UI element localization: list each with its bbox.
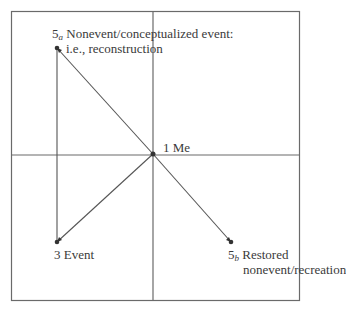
edge-me-5b [153, 154, 231, 242]
node-5b-subscript: b [235, 253, 240, 263]
node-3-label: 3 Event [54, 248, 94, 262]
node-me-number: 1 [163, 140, 170, 155]
node-5a-text: Nonevent/conceptualized event: [66, 26, 233, 41]
edge-me-5a [57, 48, 153, 154]
node-5b-text: Restored [242, 247, 288, 262]
node-me-text: Me [173, 140, 190, 155]
node-5b-label: 5b Restored [228, 248, 288, 262]
node-5b-point [229, 240, 234, 245]
node-5a-label-line2: i.e., reconstruction [66, 42, 163, 56]
node-3-text: Event [64, 247, 94, 262]
node-5b-label-line2: nonevent/recreation [243, 263, 346, 277]
node-me-point [151, 152, 156, 157]
node-5a-label: 5a Nonevent/conceptualized event: [52, 27, 233, 41]
node-me-label: 1 Me [163, 141, 190, 155]
node-5b-text-line2: nonevent/recreation [243, 262, 346, 277]
node-5a-point [55, 46, 60, 51]
node-5a-text-line2: i.e., reconstruction [66, 41, 163, 56]
node-3-number: 3 [54, 247, 61, 262]
node-5a-subscript: a [59, 32, 64, 42]
node-3-point [55, 240, 60, 245]
edge-me-3 [57, 154, 153, 242]
